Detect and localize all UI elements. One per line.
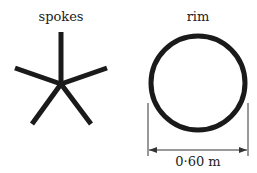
arrowhead-left (149, 147, 157, 153)
spoke (15, 68, 61, 84)
wheel-diagram: spokes rim 0·60 m (0, 0, 257, 173)
spoke (32, 84, 61, 124)
spoke (61, 84, 91, 124)
spokes-group (15, 32, 107, 124)
arrowhead-right (239, 147, 247, 153)
rim-label: rim (187, 9, 210, 24)
diameter-label: 0·60 m (175, 154, 220, 169)
spoke (61, 68, 107, 84)
spokes-label: spokes (38, 9, 83, 24)
rim-circle (151, 36, 245, 130)
